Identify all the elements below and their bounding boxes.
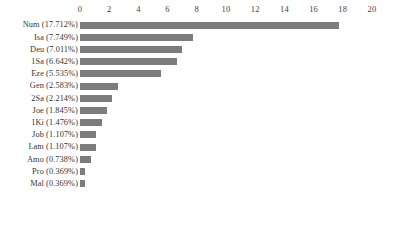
bar-row: Eze (5.535%) [0, 69, 393, 81]
bar-row: Amo (0.738%) [0, 154, 393, 166]
bar-row: 2Sa (2.214%) [0, 93, 393, 105]
bar [80, 22, 339, 29]
x-axis: 02468101214161820 [0, 0, 393, 18]
category-label: Job (1.107%) [0, 130, 78, 140]
x-axis-tick-label: 4 [136, 4, 140, 14]
bar-row: Deu (7.011%) [0, 44, 393, 56]
x-axis-tick-label: 2 [107, 4, 111, 14]
category-label: Num (17.712%) [0, 20, 78, 30]
category-label: Lam (1.107%) [0, 142, 78, 152]
category-label: Eze (5.535%) [0, 69, 78, 79]
x-axis-tick-label: 14 [280, 4, 289, 14]
category-label: Deu (7.011%) [0, 45, 78, 55]
bar [80, 83, 118, 90]
bar [80, 119, 102, 126]
category-label: 1Sa (6.642%) [0, 57, 78, 67]
bar [80, 58, 177, 65]
bar-row: Num (17.712%) [0, 20, 393, 32]
x-axis-tick-label: 18 [338, 4, 347, 14]
bar [80, 107, 107, 114]
bar-row: Job (1.107%) [0, 130, 393, 142]
x-axis-tick-label: 12 [251, 4, 260, 14]
bar [80, 34, 193, 41]
bar [80, 70, 161, 77]
category-label: Isa (7.749%) [0, 33, 78, 43]
x-axis-tick-label: 6 [165, 4, 169, 14]
category-label: 1Ki (1.476%) [0, 118, 78, 128]
x-axis-tick-label: 16 [309, 4, 318, 14]
bar [80, 131, 96, 138]
bar-row: Lam (1.107%) [0, 142, 393, 154]
bar [80, 156, 91, 163]
bar-chart: 02468101214161820 Num (17.712%)Isa (7.74… [0, 0, 393, 225]
category-label: Pro (0.369%) [0, 167, 78, 177]
bar-row: Isa (7.749%) [0, 32, 393, 44]
category-label: Amo (0.738%) [0, 155, 78, 165]
bar-row: Pro (0.369%) [0, 166, 393, 178]
bar [80, 144, 96, 151]
x-axis-tick-label: 8 [195, 4, 199, 14]
bar [80, 95, 112, 102]
category-label: Joe (1.845%) [0, 106, 78, 116]
bar-row: 1Sa (6.642%) [0, 57, 393, 69]
category-label: 2Sa (2.214%) [0, 94, 78, 104]
bar [80, 168, 85, 175]
bar-row: 1Ki (1.476%) [0, 118, 393, 130]
bar [80, 180, 85, 187]
plot-area: Num (17.712%)Isa (7.749%)Deu (7.011%)1Sa… [0, 18, 393, 208]
category-label: Mal (0.369%) [0, 179, 78, 189]
bar [80, 46, 182, 53]
x-axis-tick-label: 20 [368, 4, 377, 14]
x-axis-tick-label: 10 [222, 4, 231, 14]
bar-row: Mal (0.369%) [0, 179, 393, 191]
bar-row: Gen (2.583%) [0, 81, 393, 93]
bar-row: Joe (1.845%) [0, 105, 393, 117]
category-label: Gen (2.583%) [0, 81, 78, 91]
x-axis-tick-label: 0 [78, 4, 82, 14]
